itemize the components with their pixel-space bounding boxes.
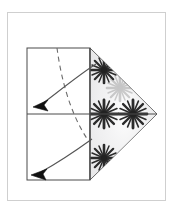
origami-fold-diagram bbox=[0, 0, 172, 220]
screenshot-root bbox=[0, 0, 172, 220]
dashed-fold-line bbox=[57, 48, 90, 143]
star-motif-center-faint bbox=[107, 75, 133, 101]
fold-arrow-lower-head bbox=[31, 169, 47, 180]
fold-arrow-upper-shaft bbox=[42, 64, 96, 104]
star-motif-bottom bbox=[91, 145, 117, 171]
fold-arrows-group bbox=[31, 64, 96, 180]
fold-arrow-lower-shaft bbox=[41, 139, 92, 172]
star-motif-top bbox=[91, 57, 117, 83]
fold-arrow-upper-head bbox=[33, 100, 48, 111]
